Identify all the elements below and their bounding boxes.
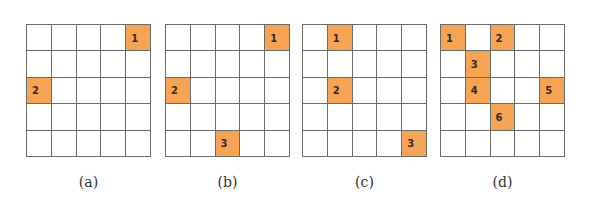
filled-cell: 1 xyxy=(265,25,290,51)
empty-cell xyxy=(191,104,216,130)
cell-label: 1 xyxy=(446,32,453,43)
panel-caption: (c) xyxy=(302,174,427,190)
cell-label: 1 xyxy=(270,32,277,43)
empty-cell xyxy=(27,131,52,157)
empty-cell xyxy=(77,78,102,104)
empty-cell xyxy=(101,131,126,157)
empty-cell xyxy=(52,104,77,130)
cell-label: 2 xyxy=(333,85,340,96)
filled-cell: 3 xyxy=(216,131,241,157)
cell-label: 1 xyxy=(131,32,138,43)
empty-cell xyxy=(216,51,241,77)
empty-cell xyxy=(166,131,191,157)
filled-cell: 5 xyxy=(540,78,565,104)
grid-panel-a: 12 xyxy=(26,24,151,157)
panel-caption: (b) xyxy=(165,174,290,190)
empty-cell xyxy=(27,51,52,77)
empty-cell xyxy=(265,51,290,77)
filled-cell: 1 xyxy=(441,25,466,51)
cell-label: 3 xyxy=(471,59,478,70)
empty-cell xyxy=(353,104,378,130)
empty-cell xyxy=(126,104,151,130)
cell-label: 5 xyxy=(545,85,552,96)
filled-cell: 2 xyxy=(27,78,52,104)
empty-cell xyxy=(491,78,516,104)
empty-cell xyxy=(353,131,378,157)
empty-cell xyxy=(166,51,191,77)
cell-label: 2 xyxy=(171,85,178,96)
empty-cell xyxy=(441,104,466,130)
cell-label: 2 xyxy=(32,85,39,96)
empty-cell xyxy=(191,131,216,157)
cell-label: 2 xyxy=(496,32,503,43)
empty-cell xyxy=(77,25,102,51)
empty-cell xyxy=(466,131,491,157)
empty-cell xyxy=(441,78,466,104)
empty-cell xyxy=(402,104,427,130)
empty-cell xyxy=(191,78,216,104)
empty-cell xyxy=(328,51,353,77)
empty-cell xyxy=(240,104,265,130)
empty-cell xyxy=(101,25,126,51)
empty-cell xyxy=(191,25,216,51)
filled-cell: 2 xyxy=(328,78,353,104)
filled-cell: 3 xyxy=(466,51,491,77)
empty-cell xyxy=(101,78,126,104)
empty-cell xyxy=(240,25,265,51)
empty-cell xyxy=(52,25,77,51)
empty-cell xyxy=(27,25,52,51)
empty-cell xyxy=(402,78,427,104)
empty-cell xyxy=(191,51,216,77)
empty-cell xyxy=(540,51,565,77)
empty-cell xyxy=(402,51,427,77)
empty-cell xyxy=(377,104,402,130)
empty-cell xyxy=(515,51,540,77)
empty-cell xyxy=(77,131,102,157)
empty-cell xyxy=(216,78,241,104)
empty-cell xyxy=(52,131,77,157)
empty-cell xyxy=(126,131,151,157)
empty-cell xyxy=(303,131,328,157)
empty-cell xyxy=(166,104,191,130)
panel-caption: (a) xyxy=(26,174,151,190)
empty-cell xyxy=(303,104,328,130)
filled-cell: 2 xyxy=(166,78,191,104)
cell-label: 4 xyxy=(471,85,478,96)
empty-cell xyxy=(240,51,265,77)
empty-cell xyxy=(540,104,565,130)
empty-cell xyxy=(265,78,290,104)
empty-cell xyxy=(353,25,378,51)
panel-caption: (d) xyxy=(440,174,565,190)
empty-cell xyxy=(377,78,402,104)
empty-cell xyxy=(265,131,290,157)
cell-label: 3 xyxy=(221,138,228,149)
empty-cell xyxy=(441,131,466,157)
empty-cell xyxy=(77,104,102,130)
empty-cell xyxy=(126,51,151,77)
empty-cell xyxy=(491,131,516,157)
empty-cell xyxy=(240,78,265,104)
empty-cell xyxy=(515,25,540,51)
grid-panel-d: 123456 xyxy=(440,24,565,157)
empty-cell xyxy=(515,78,540,104)
empty-cell xyxy=(328,131,353,157)
empty-cell xyxy=(166,25,191,51)
filled-cell: 2 xyxy=(491,25,516,51)
empty-cell xyxy=(540,131,565,157)
empty-cell xyxy=(377,131,402,157)
empty-cell xyxy=(491,51,516,77)
filled-cell: 4 xyxy=(466,78,491,104)
empty-cell xyxy=(216,25,241,51)
empty-cell xyxy=(101,51,126,77)
filled-cell: 1 xyxy=(328,25,353,51)
empty-cell xyxy=(402,25,427,51)
empty-cell xyxy=(377,51,402,77)
empty-cell xyxy=(303,51,328,77)
empty-cell xyxy=(101,104,126,130)
empty-cell xyxy=(52,78,77,104)
empty-cell xyxy=(328,104,353,130)
empty-cell xyxy=(77,51,102,77)
empty-cell xyxy=(216,104,241,130)
empty-cell xyxy=(515,104,540,130)
empty-cell xyxy=(377,25,402,51)
